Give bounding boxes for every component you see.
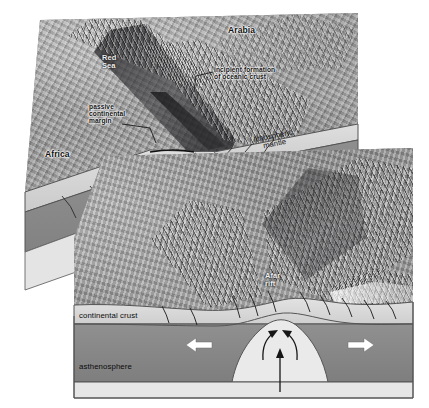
diagram-canvas: Arabia Red Sea incipient formation of oc…: [0, 0, 429, 408]
lower-block: Afar rift continental crust asthenospher…: [0, 0, 429, 408]
lower-crust-band: [74, 298, 413, 324]
lower-block-cross-section: [0, 0, 429, 408]
lower-asthenosphere-band: [74, 382, 413, 398]
